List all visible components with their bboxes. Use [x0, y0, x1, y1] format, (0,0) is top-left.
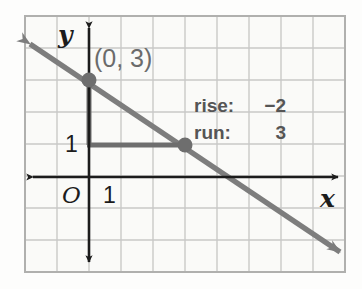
point-second	[178, 138, 193, 153]
point-coordinate-label: (0, 3)	[94, 46, 152, 71]
x-unit-tick-label: 1	[103, 184, 116, 207]
graph-canvas	[0, 0, 362, 289]
x-axis-label: x	[320, 186, 335, 211]
rise-label: rise:	[194, 95, 250, 117]
run-annotation: run: 3	[194, 122, 286, 144]
y-axis-label: y	[58, 22, 73, 47]
coordinate-plane-figure: y x O 1 1 (0, 3) rise: −2 run: 3	[0, 0, 362, 289]
run-label: run:	[194, 122, 250, 144]
rise-value: −2	[250, 95, 286, 117]
run-value: 3	[250, 122, 286, 144]
rise-annotation: rise: −2	[194, 95, 286, 117]
origin-label: O	[62, 184, 81, 207]
y-unit-tick-label: 1	[65, 133, 78, 156]
point-y-intercept	[82, 73, 97, 88]
